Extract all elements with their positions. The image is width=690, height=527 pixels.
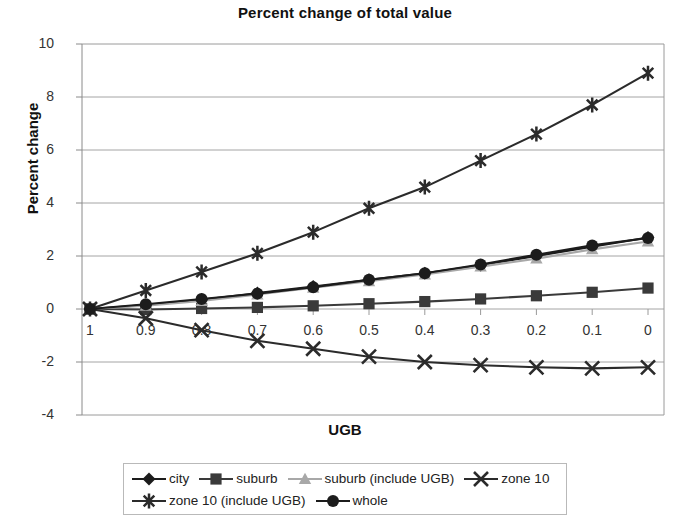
chart-figure: Percent change of total value Percent ch…	[0, 0, 690, 527]
x-axis-label: UGB	[0, 421, 690, 438]
data-point-circle	[84, 303, 96, 315]
legend-marker-diamond-icon	[132, 471, 166, 487]
data-point-asterisk	[643, 66, 654, 81]
data-point-asterisk	[140, 283, 151, 298]
data-point-circle	[140, 298, 152, 310]
data-point-circle	[307, 281, 319, 293]
legend-marker-asterisk-icon	[132, 493, 166, 509]
legend-label: city	[169, 472, 189, 486]
chart-legend: citysuburbsuburb (include UGB)zone 10 zo…	[123, 463, 567, 515]
data-point-asterisk	[252, 246, 263, 261]
legend-marker-circle-icon	[316, 493, 350, 509]
legend-row-2: zone 10 (include UGB)whole	[132, 490, 560, 512]
legend-label: suburb	[236, 472, 277, 486]
data-point-asterisk	[531, 127, 542, 142]
series-line-zone-10	[90, 309, 648, 368]
data-point-square	[475, 293, 486, 304]
data-point-circle	[530, 249, 542, 261]
data-point-circle	[586, 239, 598, 251]
data-point-circle	[363, 274, 375, 286]
legend-item-suburb-include-ugb-[interactable]: suburb (include UGB)	[288, 468, 455, 490]
legend-marker-square-icon	[199, 471, 233, 487]
legend-label: zone 10	[501, 472, 549, 486]
data-point-circle	[419, 267, 431, 279]
data-point-circle	[196, 293, 208, 305]
data-point-asterisk	[587, 97, 598, 112]
legend-row-1: citysuburbsuburb (include UGB)zone 10	[132, 468, 560, 490]
data-point-square	[642, 282, 653, 293]
legend-marker-x-icon	[464, 471, 498, 487]
legend-item-city[interactable]: city	[132, 468, 189, 490]
legend-label: suburb (include UGB)	[325, 472, 455, 486]
data-point-square	[308, 300, 319, 311]
data-point-square	[252, 302, 263, 313]
data-point-asterisk	[475, 153, 486, 168]
legend-item-zone-10-include-ugb-[interactable]: zone 10 (include UGB)	[132, 490, 306, 512]
data-point-asterisk	[308, 225, 319, 240]
data-point-asterisk	[364, 201, 375, 216]
legend-label: whole	[353, 494, 388, 508]
data-point-square	[531, 290, 542, 301]
legend-item-suburb[interactable]: suburb	[199, 468, 277, 490]
data-point-square	[363, 298, 374, 309]
legend-marker-triangle-icon	[288, 471, 322, 487]
data-point-asterisk	[196, 264, 207, 279]
data-point-circle	[251, 288, 263, 300]
legend-item-zone-10[interactable]: zone 10	[464, 468, 549, 490]
data-point-square	[419, 296, 430, 307]
legend-item-whole[interactable]: whole	[316, 490, 388, 512]
data-point-square	[587, 287, 598, 298]
legend-label: zone 10 (include UGB)	[169, 494, 306, 508]
data-point-asterisk	[419, 180, 430, 195]
plot-area	[0, 0, 690, 527]
data-point-circle	[642, 232, 654, 244]
data-point-circle	[475, 258, 487, 270]
